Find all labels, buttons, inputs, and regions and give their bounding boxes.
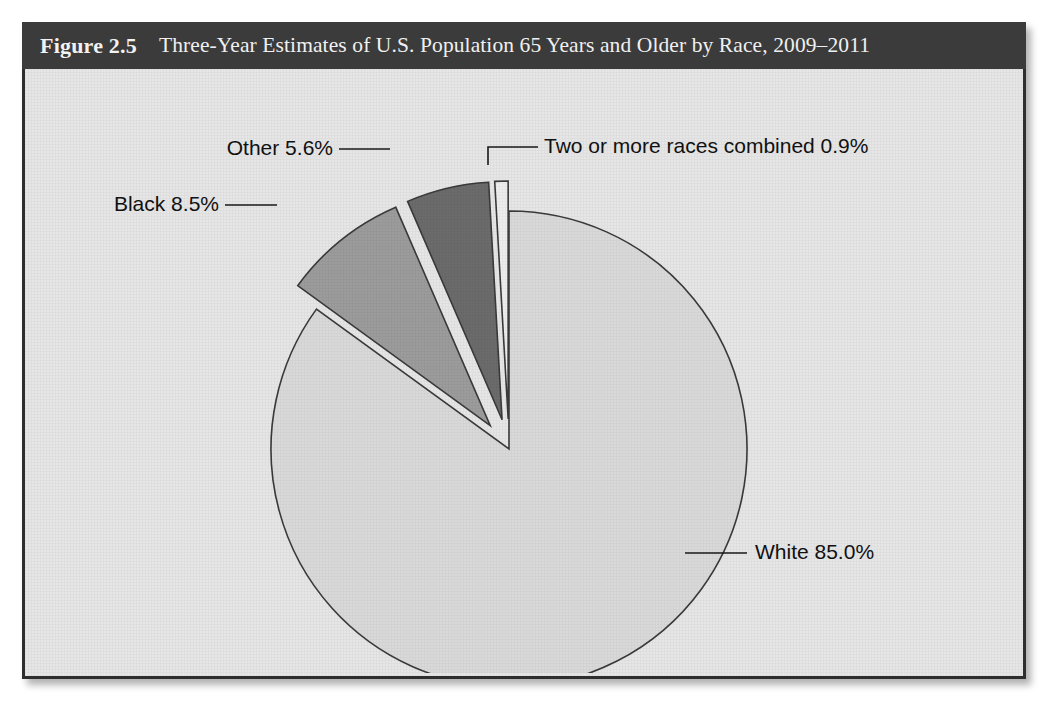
leader-line-two-or-more	[488, 147, 538, 165]
pie-chart: Two or more races combined 0.9% Other 5.…	[25, 69, 1023, 673]
figure-card: Figure 2.5 Three-Year Estimates of U.S. …	[22, 22, 1026, 679]
pie-label-other: Other 5.6%	[227, 136, 333, 159]
pie-label-white: White 85.0%	[755, 540, 874, 563]
pie-label-two-or-more: Two or more races combined 0.9%	[544, 134, 868, 157]
pie-label-black: Black 8.5%	[114, 192, 219, 215]
figure-title: Three-Year Estimates of U.S. Population …	[159, 33, 870, 58]
chart-panel: Two or more races combined 0.9% Other 5.…	[22, 69, 1026, 679]
figure-number: Figure 2.5	[40, 33, 137, 59]
figure-header: Figure 2.5 Three-Year Estimates of U.S. …	[22, 22, 1026, 69]
